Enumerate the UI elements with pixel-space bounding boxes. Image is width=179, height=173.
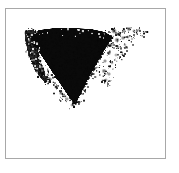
- image-border-frame: [5, 8, 166, 159]
- screenshot-root: grainy dark ink blot shape: [0, 0, 179, 173]
- ink-blot-shape: [6, 9, 166, 159]
- blob-render-area: [6, 9, 165, 158]
- image-alt-label: grainy dark ink blot shape: [0, 0, 1, 1]
